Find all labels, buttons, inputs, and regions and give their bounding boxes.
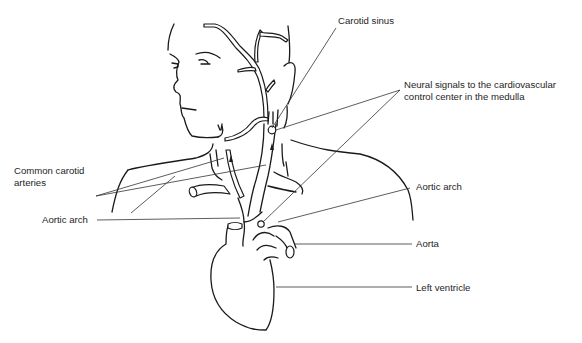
label-aorta: Aorta — [416, 238, 439, 250]
descending-aorta — [286, 246, 294, 258]
heart — [211, 223, 294, 331]
label-aortic-arch-left: Aortic arch — [42, 214, 88, 226]
label-common-carotid-line2: arteries — [14, 177, 46, 189]
label-left-ventricle: Left ventricle — [416, 282, 470, 294]
label-carotid-sinus: Carotid sinus — [338, 15, 394, 27]
label-neural-signals-line2: control center in the medulla — [404, 91, 525, 103]
anatomy-drawing — [0, 0, 582, 343]
baroreceptor-diagram: Carotid sinus Neural signals to the card… — [0, 0, 582, 343]
label-aortic-arch-right: Aortic arch — [416, 181, 462, 193]
label-neural-signals-line1: Neural signals to the cardiovascular — [404, 79, 556, 91]
label-common-carotid-line1: Common carotid — [14, 165, 84, 177]
head-arteries — [204, 24, 288, 141]
